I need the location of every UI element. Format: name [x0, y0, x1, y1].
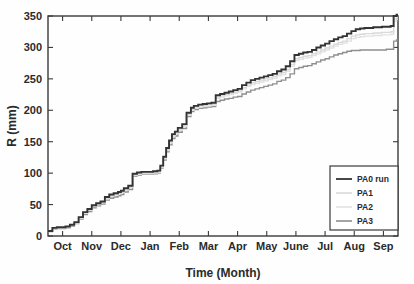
- y-tick-label: 100: [24, 167, 42, 179]
- y-tick-label: 150: [24, 136, 42, 148]
- y-tick-label: 350: [24, 10, 42, 22]
- x-tick-label: Feb: [169, 240, 189, 252]
- y-axis-title: R (mm): [5, 105, 19, 146]
- legend-label-pa3: PA3: [357, 216, 373, 226]
- y-tick-label: 0: [36, 230, 42, 242]
- y-tick-label: 300: [24, 41, 42, 53]
- x-tick-labels: OctNovDecJanFebMarAprMayJuneJulAugSep: [53, 240, 393, 252]
- legend-label-pa2: PA2: [357, 202, 373, 212]
- x-tick-label: Mar: [199, 240, 219, 252]
- x-tick-label: Aug: [344, 240, 365, 252]
- x-tick-label: Jan: [141, 240, 160, 252]
- legend-label-pa0-run: PA0 run: [357, 174, 389, 184]
- x-tick-label: Jul: [317, 240, 333, 252]
- y-tick-labels: 050100150200250300350: [24, 10, 42, 242]
- x-tick-label: June: [283, 240, 309, 252]
- chart-figure: 050100150200250300350 OctNovDecJanFebMar…: [0, 0, 414, 284]
- x-tick-label: Oct: [53, 240, 72, 252]
- x-tick-label: Apr: [228, 240, 248, 252]
- chart-plot-area: 050100150200250300350 OctNovDecJanFebMar…: [0, 0, 414, 284]
- x-axis-title: Time (Month): [185, 266, 260, 280]
- y-tick-label: 50: [30, 199, 42, 211]
- x-tick-label: May: [256, 240, 278, 252]
- x-tick-label: Nov: [81, 240, 103, 252]
- x-tick-label: Sep: [373, 240, 393, 252]
- y-tick-label: 250: [24, 73, 42, 85]
- x-tick-label: Dec: [111, 240, 131, 252]
- chart-legend[interactable]: PA0 runPA1PA2PA3: [330, 166, 398, 230]
- y-tick-label: 200: [24, 104, 42, 116]
- legend-label-pa1: PA1: [357, 188, 373, 198]
